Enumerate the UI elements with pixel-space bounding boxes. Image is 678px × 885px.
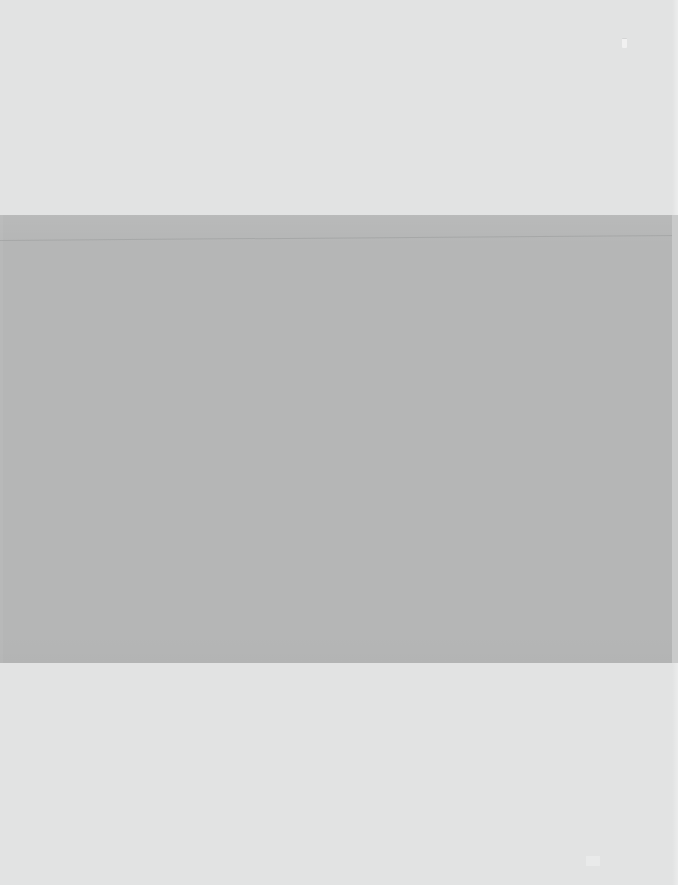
top-blank-region	[0, 0, 678, 215]
right-edge-gutter	[672, 215, 678, 663]
app-window	[0, 0, 678, 885]
speck-artifact-icon	[622, 38, 627, 48]
content-panel-surface	[0, 215, 672, 663]
panel-left-edge	[0, 215, 3, 663]
main-content-panel[interactable]	[0, 215, 672, 663]
smudge-artifact-icon	[586, 856, 600, 866]
bottom-blank-region	[0, 663, 678, 885]
